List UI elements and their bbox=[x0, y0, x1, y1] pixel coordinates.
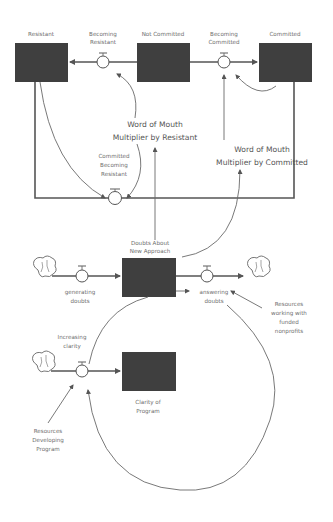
valve-generating-doubts-icon[interactable] bbox=[76, 270, 88, 282]
stock-doubts-label-2: New Approach bbox=[130, 248, 171, 255]
flow-committed-becoming-resistant-label-2: Becoming bbox=[100, 162, 128, 169]
cloud-source-generating-icon bbox=[34, 256, 57, 277]
stock-committed-label: Committed bbox=[269, 31, 301, 37]
aux-resources-developing-label-3: Program bbox=[36, 446, 60, 453]
flow-committed-becoming-resistant-label-3: Resistant bbox=[101, 171, 128, 177]
link-resources-nonprofits-to-answering bbox=[231, 291, 262, 308]
cloud-source-clarity-icon bbox=[33, 351, 56, 372]
stock-resistant[interactable] bbox=[15, 43, 68, 82]
stock-resistant-label: Resistant bbox=[28, 31, 55, 37]
flow-increasing-clarity-label-2: clarity bbox=[63, 343, 81, 350]
stock-clarity-label-2: Program bbox=[136, 408, 160, 415]
link-clarity-loop-arc bbox=[88, 305, 275, 490]
stock-doubts-about-new-approach[interactable] bbox=[122, 258, 176, 297]
aux-wom-resistant-label-1: Word of Mouth bbox=[127, 120, 183, 129]
flow-answering-doubts-label-2: doubts bbox=[204, 298, 223, 304]
stock-flow-diagram: Resistant Not Committed Committed Becomi… bbox=[0, 0, 333, 522]
flow-increasing-clarity-label-1: Increasing bbox=[58, 334, 87, 341]
stock-clarity-of-program[interactable] bbox=[122, 352, 176, 391]
valve-answering-doubts-icon[interactable] bbox=[201, 270, 213, 282]
stock-clarity-label-1: Clarity of bbox=[135, 399, 161, 406]
valve-becoming-resistant-icon[interactable] bbox=[97, 56, 109, 68]
aux-resources-nonprofits-label-2: working with bbox=[271, 310, 307, 317]
aux-wom-committed-label-1: Word of Mouth bbox=[234, 145, 290, 154]
aux-resources-nonprofits-label-1: Resources bbox=[275, 301, 304, 307]
valve-committed-becoming-resistant-icon[interactable] bbox=[109, 192, 122, 205]
aux-wom-resistant-label-2: Multiplier by Resistant bbox=[113, 133, 198, 142]
link-doubts-to-wom-committed bbox=[182, 170, 240, 257]
flow-becoming-resistant-label-2: Resistant bbox=[90, 39, 117, 45]
flow-committed-becoming-resistant-label-1: Committed bbox=[98, 153, 130, 159]
valve-becoming-committed-icon[interactable] bbox=[218, 56, 230, 68]
aux-resources-nonprofits-label-3: funded bbox=[279, 319, 299, 325]
flow-generating-doubts-label-1: generating bbox=[65, 289, 96, 296]
flow-becoming-resistant-label-1: Becoming bbox=[89, 31, 117, 38]
flow-generating-doubts-label-2: doubts bbox=[70, 298, 89, 304]
cloud-sink-answering-icon bbox=[248, 256, 271, 277]
valve-increasing-clarity-icon[interactable] bbox=[76, 365, 88, 377]
stock-not-committed[interactable] bbox=[137, 43, 190, 82]
aux-resources-nonprofits-label-4: nonprofits bbox=[275, 328, 303, 335]
stock-doubts-label-1: Doubts About bbox=[131, 240, 170, 246]
aux-resources-developing-label-1: Resources bbox=[34, 428, 63, 434]
stock-committed[interactable] bbox=[259, 43, 312, 82]
aux-resources-developing-label-2: Developing bbox=[32, 437, 64, 444]
flow-becoming-committed-label-1: Becoming bbox=[210, 31, 238, 38]
link-resistant-to-committed-becoming-resistant bbox=[40, 82, 105, 198]
flow-becoming-committed-label-2: Committed bbox=[208, 39, 240, 45]
link-wom-resistant-to-becoming-resistant bbox=[117, 74, 136, 118]
stock-not-committed-label: Not Committed bbox=[142, 31, 185, 37]
link-resources-developing-to-increasing-clarity bbox=[48, 385, 73, 423]
flow-answering-doubts-label-1: answering bbox=[200, 289, 229, 296]
